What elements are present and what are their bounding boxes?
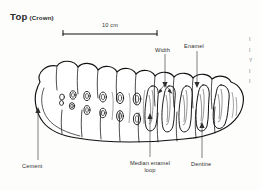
- tooth-crown-figure: Top(Crown) 10 cm Width Enamel Cement Med…: [0, 0, 260, 190]
- tooth-occlusal-drawing: [0, 0, 260, 190]
- leader-enamel: [194, 51, 199, 88]
- leader-dentine: [199, 122, 204, 158]
